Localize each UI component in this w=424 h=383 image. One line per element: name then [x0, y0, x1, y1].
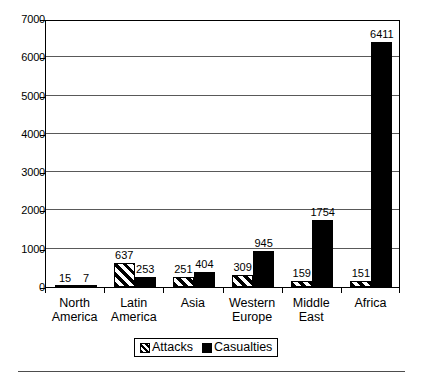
bar-group: 309945: [224, 21, 283, 287]
bar-group: 1591754: [283, 21, 342, 287]
category-label-line: North: [45, 296, 104, 310]
bar-value-label: 6411: [363, 29, 400, 40]
bar-casualties: [312, 220, 333, 287]
bar-attacks: [173, 277, 194, 287]
x-axis-category-label: Africa: [341, 296, 400, 310]
legend-swatch-casualties-icon: [202, 343, 212, 353]
x-axis-tick-mark: [223, 288, 224, 293]
category-label-line: Europe: [223, 310, 282, 324]
bar-casualties: [135, 277, 156, 287]
legend-item-casualties: Casualties: [202, 341, 272, 354]
bar-attacks: [291, 281, 312, 287]
legend-label: Attacks: [152, 341, 193, 354]
x-axis-category-label: NorthAmerica: [45, 296, 104, 324]
bar-attacks: [232, 275, 253, 287]
bar-value-label: 637: [106, 250, 143, 261]
x-axis-tick-mark: [163, 288, 164, 293]
legend-swatch-attacks-icon: [140, 343, 150, 353]
bar-group: 1516411: [342, 21, 401, 287]
bottom-divider: [18, 371, 405, 372]
x-axis-tick-mark: [399, 288, 400, 293]
bar-casualties: [253, 251, 274, 287]
bar-casualties: [194, 272, 215, 287]
category-label-line: America: [104, 310, 163, 324]
bar-group: 637253: [105, 21, 164, 287]
plot-area: 15763725325140430994515917541516411: [45, 20, 400, 288]
bar-value-label: 945: [245, 238, 282, 249]
category-label-line: East: [282, 310, 341, 324]
x-axis-category-label: Asia: [163, 296, 222, 310]
category-label-line: Middle: [282, 296, 341, 310]
x-axis-tick-mark: [341, 288, 342, 293]
category-label-line: Western: [223, 296, 282, 310]
bar-value-label: 7: [68, 273, 105, 284]
bar-attacks: [350, 281, 371, 287]
bar-casualties: [371, 42, 392, 287]
bar-casualties: [76, 285, 97, 287]
x-axis: NorthAmericaLatinAmericaAsiaWesternEurop…: [45, 288, 400, 334]
category-label-line: Asia: [163, 296, 222, 310]
x-axis-category-label: MiddleEast: [282, 296, 341, 324]
bar-value-label: 253: [127, 264, 164, 275]
category-label-line: Latin: [104, 296, 163, 310]
bar-value-label: 1754: [304, 207, 341, 218]
category-label-line: America: [45, 310, 104, 324]
x-axis-category-label: LatinAmerica: [104, 296, 163, 324]
bar-group: 157: [46, 21, 105, 287]
legend-item-attacks: Attacks: [140, 341, 193, 354]
x-axis-tick-mark: [45, 288, 46, 293]
category-label-line: Africa: [341, 296, 400, 310]
bar-attacks: [55, 285, 76, 287]
y-axis: 01000200030004000500060007000: [0, 0, 45, 308]
chart-legend: AttacksCasualties: [134, 338, 278, 357]
x-axis-tick-mark: [104, 288, 105, 293]
x-axis-category-label: WesternEurope: [223, 296, 282, 324]
bar-value-label: 404: [186, 259, 223, 270]
legend-label: Casualties: [214, 341, 272, 354]
bar-chart: 01000200030004000500060007000 1576372532…: [0, 0, 424, 383]
x-axis-tick-mark: [282, 288, 283, 293]
bar-group: 251404: [164, 21, 223, 287]
